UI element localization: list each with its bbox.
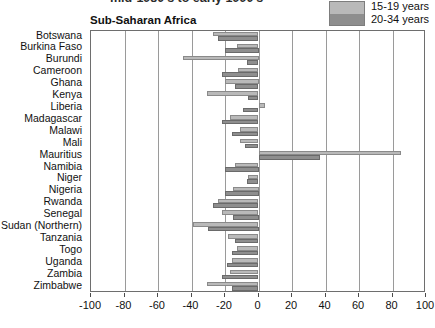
bar-row bbox=[91, 79, 424, 91]
x-tick bbox=[191, 293, 192, 297]
bar-row bbox=[91, 257, 424, 269]
x-tick bbox=[224, 293, 225, 297]
x-tick bbox=[425, 293, 426, 297]
legend-label-20-34: 20-34 years bbox=[371, 13, 429, 26]
bar-20-34 bbox=[227, 263, 259, 268]
bar-20-34 bbox=[235, 84, 258, 89]
x-axis-tick-labels: -100-80-60-40-20020406080100 bbox=[0, 299, 435, 317]
bar-row bbox=[91, 174, 424, 186]
bar-row bbox=[91, 102, 424, 114]
bar-row bbox=[91, 138, 424, 150]
y-axis-label-madagascar: Madagascar bbox=[24, 113, 82, 125]
x-tick bbox=[90, 293, 91, 297]
bar-20-34 bbox=[232, 251, 259, 256]
bar-20-34 bbox=[247, 179, 259, 184]
bar-row bbox=[91, 67, 424, 79]
y-axis-label-mali: Mali bbox=[63, 137, 82, 149]
bar-20-34 bbox=[259, 155, 321, 160]
bar-row bbox=[91, 210, 424, 222]
bar-row bbox=[91, 233, 424, 245]
bar-row bbox=[91, 245, 424, 257]
y-axis-category-labels: BotswanaBurkina FasoBurundiCameroonGhana… bbox=[0, 30, 86, 292]
y-axis-label-togo: Togo bbox=[59, 244, 82, 256]
y-axis-label-zimbabwe: Zimbabwe bbox=[34, 280, 82, 292]
x-tick-label: 100 bbox=[400, 299, 435, 311]
x-tick bbox=[124, 293, 125, 297]
bar-20-34 bbox=[232, 286, 259, 291]
bar-20-34 bbox=[222, 120, 259, 125]
y-axis-label-malawi: Malawi bbox=[49, 125, 82, 137]
x-tick bbox=[325, 293, 326, 297]
bar-row bbox=[91, 269, 424, 281]
x-tick bbox=[258, 293, 259, 297]
x-tick bbox=[392, 293, 393, 297]
bar-row bbox=[91, 281, 424, 293]
bar-row bbox=[91, 198, 424, 210]
bar-row bbox=[91, 126, 424, 138]
bar-20-34 bbox=[213, 203, 258, 208]
legend-labels: 15-19 years 20-34 years bbox=[371, 0, 429, 25]
bar-20-34 bbox=[225, 167, 259, 172]
bar-row bbox=[91, 162, 424, 174]
bar-15-19 bbox=[259, 103, 266, 108]
legend: 15-19 years 20-34 years bbox=[329, 1, 433, 26]
bar-20-34 bbox=[235, 239, 258, 244]
y-axis-label-uganda: Uganda bbox=[45, 256, 82, 268]
chart-container: mid-1980's to early 1990's 15-19 years 2… bbox=[0, 0, 435, 328]
panel-heading: Sub-Saharan Africa bbox=[90, 14, 196, 26]
plot-area bbox=[90, 30, 425, 292]
bar-20-34 bbox=[245, 144, 258, 149]
bar-row bbox=[91, 91, 424, 103]
bar-20-34 bbox=[232, 132, 259, 137]
bar-20-34 bbox=[208, 227, 258, 232]
bar-20-34 bbox=[225, 48, 259, 53]
x-tick bbox=[291, 293, 292, 297]
bar-row bbox=[91, 150, 424, 162]
bar-20-34 bbox=[218, 36, 258, 41]
x-tick bbox=[157, 293, 158, 297]
bar-row bbox=[91, 55, 424, 67]
bar-20-34 bbox=[225, 191, 259, 196]
legend-swatch-15-19 bbox=[330, 2, 364, 14]
legend-label-15-19: 15-19 years bbox=[371, 0, 429, 13]
bar-20-34 bbox=[248, 96, 258, 101]
bar-row bbox=[91, 43, 424, 55]
chart-title-cropped: mid-1980's to early 1990's bbox=[110, 0, 340, 5]
bar-rows bbox=[91, 31, 424, 291]
legend-swatch-20-34 bbox=[330, 14, 364, 26]
bar-20-34 bbox=[233, 215, 258, 220]
y-axis-label-mauritius: Mauritius bbox=[39, 149, 82, 161]
x-tick bbox=[358, 293, 359, 297]
bar-20-34 bbox=[247, 60, 259, 65]
bar-20-34 bbox=[222, 72, 259, 77]
legend-swatch-group bbox=[329, 1, 365, 26]
bar-20-34 bbox=[243, 108, 258, 113]
bar-row bbox=[91, 31, 424, 43]
bar-row bbox=[91, 186, 424, 198]
bar-row bbox=[91, 114, 424, 126]
bar-row bbox=[91, 222, 424, 234]
y-axis-label-zambia: Zambia bbox=[47, 268, 82, 280]
bar-20-34 bbox=[222, 275, 259, 280]
